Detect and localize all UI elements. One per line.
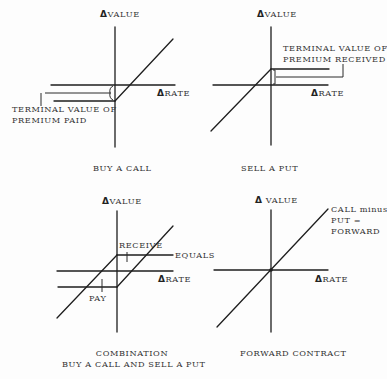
q1-premium-bracket — [110, 86, 113, 100]
q3-y-axis-label: ΔVALUE — [102, 196, 142, 207]
q3-title: COMBINATIONBUY A CALL AND SELL A PUT — [62, 348, 202, 370]
q3-pay-label: PAY — [89, 293, 107, 304]
q4-forward-diagonal — [217, 209, 328, 327]
q4-title: FORWARD CONTRACT — [240, 348, 347, 359]
q4-call-minus-put-annotation: CALL minusPUT =FORWARD — [331, 204, 387, 237]
diagram-lines — [41, 27, 343, 332]
q3-equals-label: EQUALS — [175, 250, 215, 261]
q1-x-axis-label: ΔRATE — [157, 88, 190, 99]
q2-premium-bracket — [273, 70, 275, 84]
q1-y-axis-label: ΔVALUE — [100, 9, 140, 20]
q3-x-axis-label: ΔRATE — [158, 274, 191, 285]
q1-title: BUY A CALL — [93, 163, 152, 174]
q2-premium-received-annotation: TERMINAL VALUE OFPREMIUM RECEIVED — [283, 43, 387, 65]
q1-premium-paid-annotation: TERMINAL VALUE OFPREMIUM PAID — [12, 104, 117, 126]
q2-payoff-diagonal — [211, 69, 271, 131]
q4-y-axis-label: Δ VALUE — [255, 195, 298, 206]
q2-x-axis-label: ΔRATE — [311, 88, 344, 99]
q4-origin-dot — [269, 268, 273, 272]
options-payoff-figure: ΔVALUE ΔRATE TERMINAL VALUE OFPREMIUM PA… — [0, 0, 387, 379]
q3-receive-label: RECEIVE — [119, 240, 163, 251]
q2-y-axis-label: ΔVALUE — [257, 9, 297, 20]
q4-x-axis-label: ΔRATE — [315, 274, 348, 285]
q2-title: SELL A PUT — [241, 163, 298, 174]
